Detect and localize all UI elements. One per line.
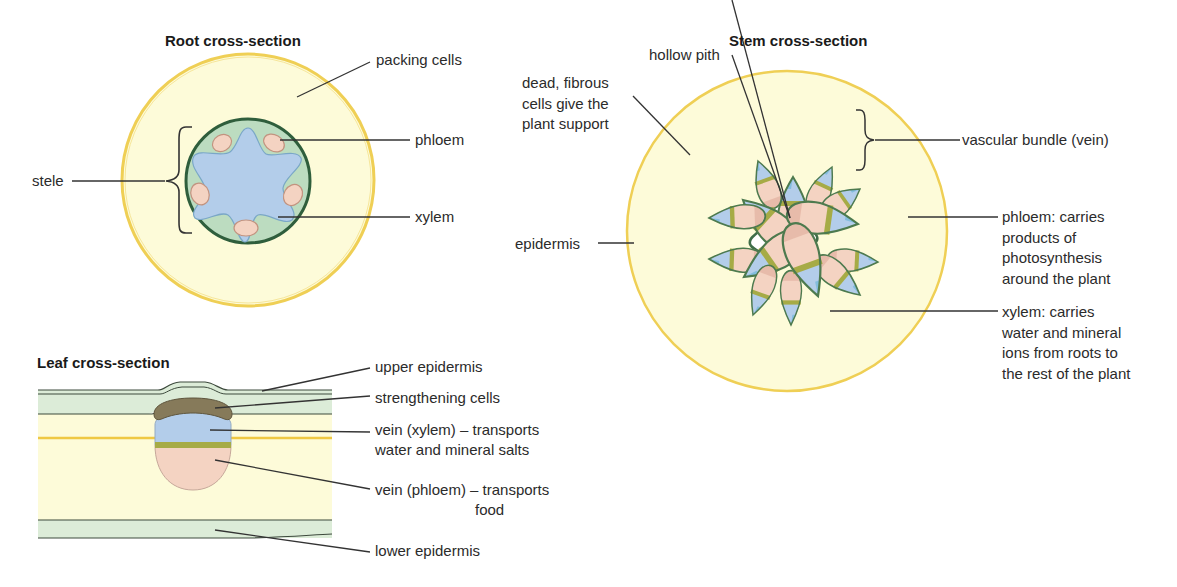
root-label-xylem: xylem [415,207,454,226]
leaf-title: Leaf cross-section [37,354,170,371]
root-label-stele: stele [32,171,64,190]
stem-label-hollow-pith: hollow pith [649,45,720,64]
stem-label-fibrous-cells: dead, fibrous cells give the plant suppo… [522,73,609,135]
stem-label-vascular-bundle: vascular bundle (vein) [962,130,1109,149]
root-title: Root cross-section [165,32,301,49]
leaf-vein [154,398,232,490]
leaf-label-vein-phloem: vein (phloem) – transports food [375,480,549,520]
stem-label-epidermis: epidermis [515,234,580,253]
leaf-label-lower-epidermis: lower epidermis [375,541,480,560]
leaf-diagram [38,368,370,552]
root-diagram [72,54,410,306]
leaf-lower-epidermis [38,520,332,538]
leaf-label-strengthening-cells: strengthening cells [375,388,500,407]
stem-label-xylem: xylem: carries water and mineral ions fr… [1002,302,1130,384]
leaf-label-upper-epidermis: upper epidermis [375,357,483,376]
root-label-packing-cells: packing cells [376,50,462,69]
stem-label-phloem: phloem: carries products of photosynthes… [1002,207,1110,289]
leaf-label-vein-xylem: vein (xylem) – transports water and mine… [375,420,539,460]
root-label-phloem: phloem [415,130,464,149]
stem-title: Stem cross-section [729,32,867,49]
